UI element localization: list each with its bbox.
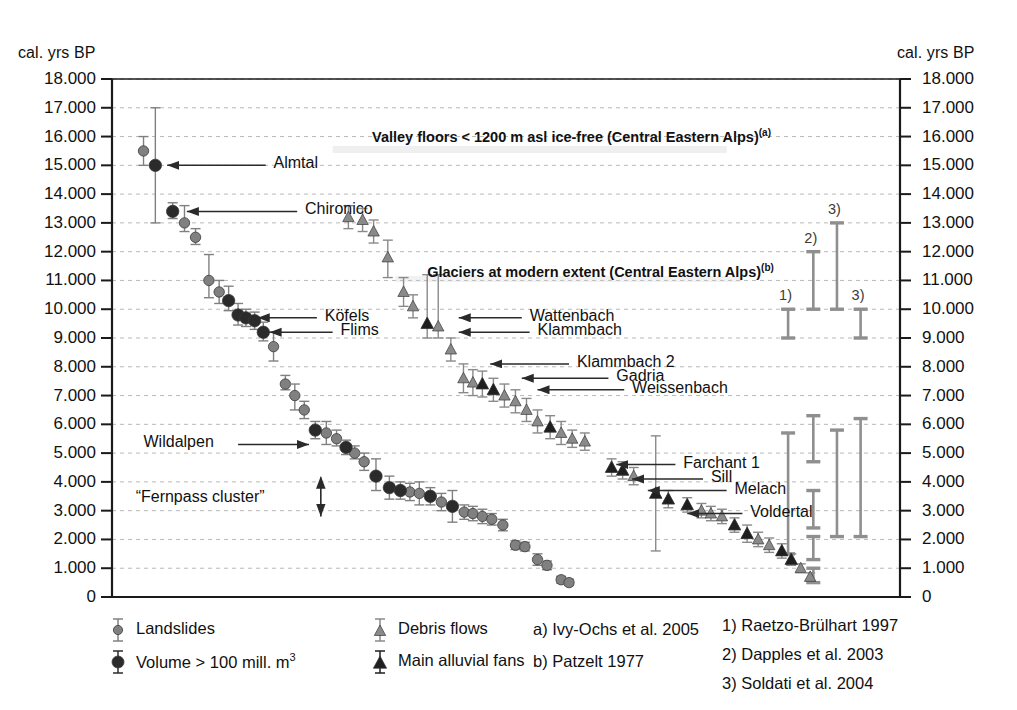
legend-label-fans: Main alluvial fans: [398, 651, 525, 670]
band-annotation-0: Valley floors < 1200 m asl ice-free (Cen…: [372, 127, 771, 145]
legend-footnote-a: a) Ivy-Ochs et al. 2005: [533, 620, 699, 639]
legend-label-text: Debris flows: [398, 619, 488, 637]
point-annotation-chironico: Chironico: [305, 200, 373, 218]
reference-bar: [781, 309, 795, 338]
band-annotation-text: Valley floors < 1200 m asl ice-free (Cen…: [372, 128, 759, 144]
reference-bar: [830, 223, 844, 309]
point-annotation-voldertal: Voldertal: [750, 503, 812, 521]
chart-canvas: [0, 0, 1017, 710]
legend-label-superscript: 3: [290, 651, 296, 663]
point-annotation-weissenbach: Weissenbach: [632, 379, 728, 397]
point-annotation-sill: Sill: [711, 468, 732, 486]
series-landslides: [138, 108, 574, 588]
point-annotation-almtal: Almtal: [274, 154, 318, 172]
legend-symbol-volume: [112, 651, 124, 673]
reference-bar: [854, 419, 868, 537]
legend-numbered-ref-3: 3) Soldati et al. 2004: [722, 674, 873, 693]
legend-footnote-b: b) Patzelt 1977: [533, 652, 644, 671]
band-annotation-text: Glaciers at modern extent (Central Easte…: [427, 264, 761, 280]
legend-label-debris: Debris flows: [398, 619, 488, 638]
legend-numbered-ref-1: 1) Raetzo-Brülhart 1997: [722, 616, 898, 635]
band-annotation-1: Glaciers at modern extent (Central Easte…: [427, 262, 774, 280]
series-volume-100-mill-m3: [149, 159, 458, 512]
legend-numbered-ref-2: 2) Dapples et al. 2003: [722, 645, 883, 664]
reference-bar: [854, 309, 868, 338]
point-annotation-wildalpen: Wildalpen: [144, 433, 214, 451]
reference-bar: [830, 430, 844, 536]
legend-label-volume: Volume > 100 mill. m3: [136, 651, 296, 672]
point-annotation--fernpass-cluster-: “Fernpass cluster”: [136, 488, 265, 506]
legend-symbol-debris: [374, 619, 385, 641]
reference-bar-label-0: 1): [779, 287, 792, 303]
reference-bar: [806, 416, 820, 462]
reference-bar-label-3: 3): [852, 287, 865, 303]
legend-symbol-landslides: [113, 619, 123, 641]
reference-bar-label-2: 3): [828, 201, 841, 217]
legend-label-landslides: Landslides: [136, 619, 215, 638]
legend-label-text: Volume > 100 mill. m: [136, 653, 290, 671]
band-annotation-superscript: (b): [761, 262, 774, 273]
band-annotation-superscript: (a): [759, 127, 771, 138]
point-annotation-klammbach: Klammbach: [538, 321, 622, 339]
reference-bar: [806, 537, 820, 560]
legend-label-text: Main alluvial fans: [398, 651, 525, 669]
point-annotation-flims: Flims: [341, 321, 379, 339]
point-annotation-melach: Melach: [735, 480, 787, 498]
legend-symbol-fans: [373, 651, 386, 673]
data-series: [138, 108, 816, 588]
figure-root: cal. yrs BP cal. yrs BP 18.00017.00016.0…: [0, 0, 1017, 710]
reference-bars: [781, 223, 867, 583]
legend-label-text: Landslides: [136, 619, 215, 637]
reference-bar-label-1: 2): [804, 230, 817, 246]
